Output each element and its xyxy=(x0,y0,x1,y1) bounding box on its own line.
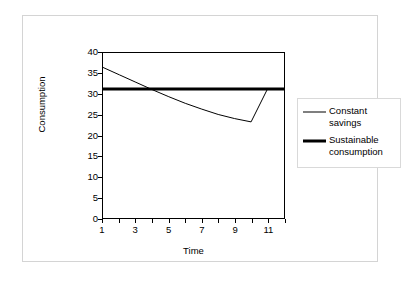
y-axis-title: Consumption xyxy=(36,57,47,153)
x-axis-tick-mark xyxy=(202,219,203,223)
legend-swatch-thin-line-icon xyxy=(302,105,327,119)
x-axis-title: Time xyxy=(102,245,285,256)
legend-entry-constant-savings: Constant savings xyxy=(302,105,396,129)
x-axis-tick-label: 5 xyxy=(166,225,171,235)
x-axis-tick-mark xyxy=(235,219,236,223)
y-axis-tick-label: 15 xyxy=(87,152,98,162)
legend-swatch-thick-line-icon xyxy=(302,134,327,148)
x-axis-tick-mark xyxy=(218,219,219,223)
x-axis-tick-mark xyxy=(268,219,269,223)
y-axis-tick-label: 25 xyxy=(87,110,98,120)
y-axis-tick-labels: 4035302520151050 xyxy=(76,52,98,219)
y-axis-tick-label: 20 xyxy=(87,131,98,141)
x-axis-tick-mark xyxy=(119,219,120,223)
chart-screenshot: Consumption 4035302520151050 1357911 Tim… xyxy=(0,0,401,281)
x-axis-tick-mark xyxy=(185,219,186,223)
legend-label-sustainable-consumption: Sustainable consumption xyxy=(329,134,383,158)
figure-frame: Consumption 4035302520151050 1357911 Tim… xyxy=(22,15,378,262)
x-axis-tick-label: 11 xyxy=(263,225,273,235)
x-axis-tick-labels: 1357911 xyxy=(102,225,285,239)
x-axis-tick-label: 7 xyxy=(199,225,204,235)
x-axis-tick-mark xyxy=(285,219,286,223)
y-axis-tick-label: 10 xyxy=(87,173,98,183)
plot-series-svg xyxy=(103,53,284,218)
chart-legend: Constant savings Sustainable consumption xyxy=(297,98,401,168)
x-axis-tick-mark xyxy=(252,219,253,223)
y-axis-tick-label: 35 xyxy=(87,68,98,78)
x-axis-tick-label: 1 xyxy=(99,225,104,235)
x-axis-tick-mark xyxy=(102,219,103,223)
x-axis-tick-label: 9 xyxy=(232,225,237,235)
y-axis-tick-label: 30 xyxy=(87,89,98,99)
x-axis-tick-mark xyxy=(169,219,170,223)
x-axis-tick-mark xyxy=(152,219,153,223)
plot-area xyxy=(102,52,285,219)
x-axis-tick-mark xyxy=(135,219,136,223)
y-axis-tick-label: 40 xyxy=(87,47,98,57)
x-axis-tick-label: 3 xyxy=(133,225,138,235)
legend-label-constant-savings: Constant savings xyxy=(329,105,367,129)
series-line-constant-savings xyxy=(103,67,268,121)
x-axis-tick-marks xyxy=(102,219,285,224)
legend-entry-sustainable-consumption: Sustainable consumption xyxy=(302,134,396,158)
